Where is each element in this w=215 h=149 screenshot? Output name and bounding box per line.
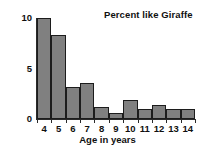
- x-tick-label: 4: [37, 123, 51, 134]
- x-tick-label: 13: [166, 123, 180, 134]
- bar: [166, 109, 180, 119]
- bar: [37, 18, 51, 119]
- bar: [181, 109, 195, 119]
- x-tick-label: 5: [51, 123, 65, 134]
- bar: [138, 109, 152, 119]
- x-tick-label: 11: [138, 123, 152, 134]
- y-tick-label-wrap: 5: [0, 63, 32, 74]
- x-tick-label: 6: [66, 123, 80, 134]
- x-tick-label: 12: [152, 123, 166, 134]
- x-tick-label: 8: [94, 123, 108, 134]
- y-tick-label-wrap: 10: [0, 12, 32, 23]
- x-tick-label: 10: [123, 123, 137, 134]
- y-tick-label: 0: [0, 113, 32, 124]
- bar: [152, 105, 166, 119]
- x-axis-line: [36, 119, 196, 120]
- bars-container: [37, 18, 195, 119]
- bar: [94, 107, 108, 119]
- y-tick-label-wrap: 0: [0, 113, 32, 124]
- y-tick-label: 5: [0, 63, 32, 74]
- x-tick-label: 9: [109, 123, 123, 134]
- x-tick-label: 7: [80, 123, 94, 134]
- bar-chart-figure: Percent like Giraffe 0510 45678910111213…: [0, 0, 215, 149]
- bar: [51, 35, 65, 119]
- x-tick-mark: [195, 120, 196, 123]
- x-axis-label: Age in years: [0, 134, 215, 145]
- bar: [109, 113, 123, 119]
- x-tick-label: 14: [181, 123, 195, 134]
- y-tick-label: 10: [0, 12, 32, 23]
- bar: [66, 87, 80, 119]
- bar: [123, 100, 137, 119]
- bar: [80, 83, 94, 119]
